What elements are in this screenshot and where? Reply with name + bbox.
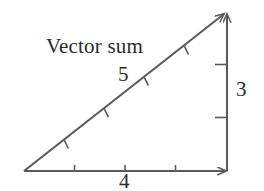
resultant-tick-3 [144,77,148,86]
resultant-tick-2 [104,108,108,117]
vector-sum-label: Vector sum [46,36,143,57]
resultant-tick-1 [64,140,68,149]
resultant-tick-4 [184,45,188,54]
vector-sum-diagram: Vector sum 5 3 4 [0,0,264,191]
vertical-magnitude-label: 3 [236,79,247,100]
resultant-magnitude-label: 5 [118,64,129,85]
vertical-vector-group [215,14,227,171]
vector-diagram-canvas [0,0,264,191]
horizontal-magnitude-label: 4 [119,171,130,191]
